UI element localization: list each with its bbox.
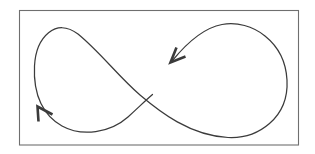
figure-eight-curve bbox=[34, 24, 287, 138]
figure-eight-diagram bbox=[0, 0, 315, 154]
direction-arrow-lower-left-icon bbox=[38, 107, 53, 122]
direction-arrow-upper-right-icon bbox=[171, 48, 186, 63]
diagram-canvas bbox=[0, 0, 315, 154]
